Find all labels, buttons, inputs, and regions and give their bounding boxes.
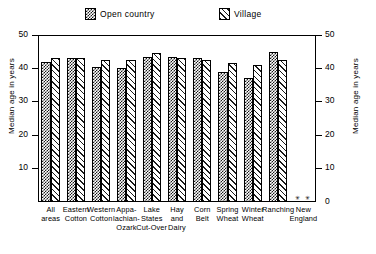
bar-open-country	[168, 57, 177, 202]
bar-group	[168, 35, 186, 202]
bar-village	[51, 58, 60, 202]
bar-group	[117, 35, 135, 202]
legend-label-village: Village	[234, 10, 261, 19]
bar-open-country	[41, 62, 50, 202]
y-label-left-50: 50	[19, 30, 28, 39]
y-tick-right-50	[315, 35, 322, 36]
bar-open-country	[67, 58, 76, 202]
y-label-right-20: 20	[325, 130, 334, 139]
y-tick-right-10	[315, 168, 322, 169]
hatch-swatch-icon	[219, 8, 230, 20]
y-label-left-30: 30	[19, 96, 28, 105]
bar-open-country	[269, 52, 278, 202]
bar-group: ✳✳	[294, 35, 312, 202]
bar-open-country	[92, 67, 101, 202]
bar-open-country	[117, 68, 126, 202]
bar-series-layer: ✳✳	[38, 35, 316, 202]
y-label-left-10: 10	[19, 163, 28, 172]
y-axis-title-left: Median age in years	[8, 51, 16, 141]
bar-open-country	[143, 57, 152, 202]
bar-village	[76, 58, 85, 202]
bar-village	[253, 65, 262, 202]
y-label-left-20: 20	[19, 130, 28, 139]
y-label-right-10: 10	[325, 163, 334, 172]
bar-group	[41, 35, 59, 202]
y-tick-right-40	[315, 68, 322, 69]
bar-group	[67, 35, 85, 202]
bar-village	[228, 63, 237, 202]
bar-village	[126, 60, 135, 202]
legend-label-open-country: Open country	[100, 10, 155, 19]
y-axis-title-right: Median age in years	[352, 51, 360, 141]
y-label-right-0: 0	[325, 197, 330, 206]
y-tick-right-20	[315, 135, 322, 136]
bar-chart: Open country Village 50 40 30 20 10 Medi…	[0, 0, 376, 254]
bar-group	[244, 35, 262, 202]
x-axis-label: NewEngland	[287, 205, 320, 223]
bar-village	[202, 60, 211, 202]
bar-group	[143, 35, 161, 202]
bar-group	[193, 35, 211, 202]
checker-swatch-icon	[85, 8, 96, 20]
y-label-right-40: 40	[325, 63, 334, 72]
bar-open-country	[218, 72, 227, 202]
bar-group	[218, 35, 236, 202]
y-label-right-50: 50	[325, 30, 334, 39]
y-label-right-30: 30	[325, 96, 334, 105]
legend-item-village: Village	[219, 8, 261, 20]
no-data-marker: ✳	[305, 195, 310, 201]
legend-item-open-country: Open country	[85, 8, 155, 20]
y-label-left-40: 40	[19, 63, 28, 72]
bar-village	[278, 60, 287, 202]
bar-open-country	[193, 58, 202, 202]
y-tick-right-30	[315, 101, 322, 102]
chart-legend: Open country Village	[0, 8, 376, 28]
bar-open-country	[244, 78, 253, 202]
bar-village	[152, 53, 161, 202]
x-axis-categories: AllareasEasternCottonWesternCottonAppa-l…	[38, 205, 316, 251]
bar-village	[177, 58, 186, 202]
bar-group	[269, 35, 287, 202]
bar-village	[101, 60, 110, 202]
bar-group	[92, 35, 110, 202]
no-data-marker: ✳	[295, 195, 300, 201]
